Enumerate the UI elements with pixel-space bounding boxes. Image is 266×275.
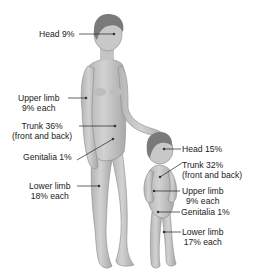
adult-head-label: Head 9%	[39, 29, 74, 39]
child-upper-limb-label: Upper limb 9% each	[182, 186, 224, 206]
adult-genitalia-label: Genitalia 1%	[23, 152, 72, 162]
label-text: Lower limb	[29, 181, 71, 191]
label-text: Genitalia 1%	[181, 207, 230, 217]
label-text: Genitalia 1%	[23, 152, 72, 162]
label-subtext: (front and back)	[182, 170, 242, 180]
rule-of-nines-diagram: Head 9% Upper limb 9% each Trunk 36% (fr…	[0, 0, 266, 275]
label-subtext: 9% each	[182, 196, 224, 206]
adult-lower-limb-label: Lower limb 18% each	[29, 181, 71, 201]
label-text: Lower limb	[182, 227, 224, 237]
adult-trunk-label: Trunk 36% (front and back)	[12, 121, 72, 141]
label-text: Upper limb	[182, 186, 224, 196]
child-lower-limb-label: Lower limb 17% each	[182, 227, 224, 247]
label-text: Trunk 36%	[12, 121, 72, 131]
label-text: Head 9%	[39, 29, 74, 39]
label-subtext: (front and back)	[12, 131, 72, 141]
adult-upper-limb-label: Upper limb 9% each	[18, 93, 60, 113]
child-figure	[144, 132, 177, 268]
child-head-label: Head 15%	[182, 144, 222, 154]
child-genitalia-label: Genitalia 1%	[181, 207, 230, 217]
label-text: Upper limb	[18, 93, 60, 103]
label-subtext: 9% each	[18, 103, 60, 113]
label-text: Head 15%	[182, 144, 222, 154]
label-subtext: 17% each	[182, 237, 224, 247]
label-text: Trunk 32%	[182, 160, 242, 170]
label-subtext: 18% each	[29, 191, 71, 201]
child-trunk-label: Trunk 32% (front and back)	[182, 160, 242, 180]
